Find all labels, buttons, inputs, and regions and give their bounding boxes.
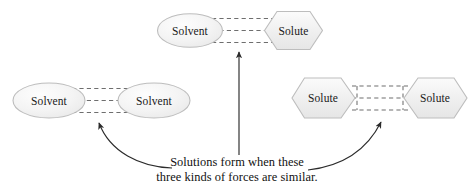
caption-line-1: Solutions form when these [132,155,342,170]
particle-solute-hexagon-right [404,78,467,118]
particle-solvent-ellipse [158,14,223,48]
group-solvent-solute [158,12,323,50]
particle-solvent-ellipse-right [118,83,190,118]
diagram-caption: Solutions form when these three kinds of… [132,155,342,184]
caption-line-2: three kinds of forces are similar. [132,170,342,185]
particle-solute-hexagon-left [292,78,355,118]
particle-solvent-ellipse-left [13,83,85,118]
bond-dashes-solute-solute [352,86,408,110]
group-solute-solute [292,78,467,118]
group-solvent-solvent [13,83,190,118]
particle-solute-hexagon [265,12,323,50]
diagram-canvas: Solvent Solute Solvent Solvent Solute So… [0,0,473,193]
